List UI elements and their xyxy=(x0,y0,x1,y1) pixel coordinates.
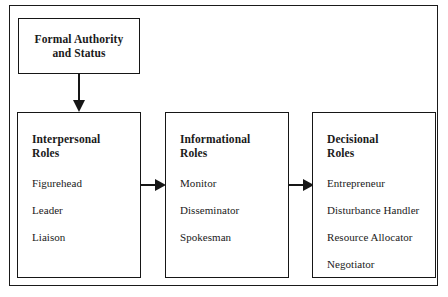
list-item: Disturbance Handler xyxy=(327,204,435,217)
list-item: Figurehead xyxy=(32,177,140,190)
connector-vertical-line xyxy=(78,74,80,103)
list-item: Entrepreneur xyxy=(327,177,435,190)
list-item: Leader xyxy=(32,204,140,217)
list-item: Liaison xyxy=(32,231,140,244)
managerial-roles-diagram: Formal Authority and Status Interpersona… xyxy=(0,0,448,297)
interpersonal-roles-heading: Interpersonal Roles xyxy=(32,132,140,160)
list-item: Disseminator xyxy=(180,204,288,217)
arrow-down-icon xyxy=(73,100,85,112)
informational-roles-list: Monitor Disseminator Spokesman xyxy=(180,177,288,244)
node-informational-roles: Informational Roles Monitor Disseminator… xyxy=(165,112,289,278)
interpersonal-roles-list: Figurehead Leader Liaison xyxy=(32,177,140,244)
node-interpersonal-roles: Interpersonal Roles Figurehead Leader Li… xyxy=(17,112,141,278)
list-item: Negotiator xyxy=(327,258,435,271)
list-item: Monitor xyxy=(180,177,288,190)
node-formal-authority-and-status: Formal Authority and Status xyxy=(18,18,140,74)
list-item: Spokesman xyxy=(180,231,288,244)
list-item: Resource Allocator xyxy=(327,231,435,244)
node-decisional-roles: Decisional Roles Entrepreneur Disturbanc… xyxy=(312,112,436,278)
decisional-roles-list: Entrepreneur Disturbance Handler Resourc… xyxy=(327,177,435,271)
informational-roles-heading: Informational Roles xyxy=(180,132,288,160)
decisional-roles-heading: Decisional Roles xyxy=(327,132,435,160)
formal-authority-label: Formal Authority and Status xyxy=(35,32,124,61)
